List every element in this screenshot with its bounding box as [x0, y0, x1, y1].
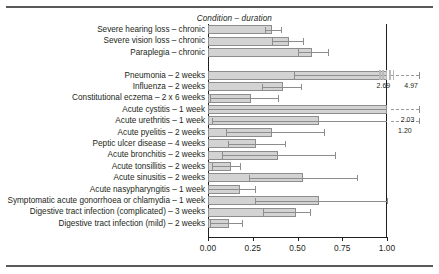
bar-row [208, 70, 387, 81]
x-tick-label: 0.75 [334, 243, 350, 253]
category-label: Digestive tract infection (mild) – 2 wee… [2, 218, 208, 229]
error-bar-cap [263, 209, 264, 216]
error-bar-line [222, 155, 335, 156]
category-label-column: Severe hearing loss – chronicSevere visi… [0, 24, 208, 237]
error-bar-cap [328, 49, 329, 56]
error-bar-line [228, 144, 285, 145]
category-label: Digestive tract infection (complicated) … [2, 206, 208, 217]
x-tick [387, 237, 388, 241]
x-tick-label: 1.00 [379, 243, 395, 253]
x-tick [208, 237, 209, 241]
bar-row [208, 206, 387, 217]
error-bar-cap [249, 175, 250, 182]
bar-row [208, 92, 387, 103]
bar-row [208, 81, 387, 92]
category-label: Acute bronchitis – 2 weeks [2, 149, 208, 160]
axis-break-mark [379, 70, 381, 80]
category-label: Paraplegia – chronic [2, 47, 208, 58]
bar-row [208, 104, 387, 115]
category-label: Symptomatic acute gonorrhoea or chlamydi… [2, 195, 208, 206]
error-bar-cap [240, 163, 241, 170]
error-bar-cap [324, 129, 325, 136]
category-label: Acute nasypharyngitis – 1 week [2, 184, 208, 195]
error-bar-line [249, 178, 356, 179]
error-bar-overflow-cap [419, 106, 420, 113]
error-bar-line [212, 121, 387, 122]
axis-break-mark [386, 70, 388, 80]
bar-row [208, 47, 387, 58]
category-label: Acute tonsillitis – 2 weeks [2, 161, 208, 172]
error-bar-cap [265, 27, 266, 34]
error-bar-cap [255, 186, 256, 193]
error-bar-cap [298, 49, 299, 56]
error-bar-cap [212, 163, 213, 170]
error-bar-line [212, 166, 241, 167]
bar-row [208, 24, 387, 35]
bar-row [208, 184, 387, 195]
error-bar-cap [272, 38, 273, 45]
error-bar-cap [301, 84, 302, 91]
bar [208, 48, 312, 57]
error-bar-line [298, 52, 328, 53]
category-label: Constitutional eczema – 2 x 6 weeks [2, 92, 208, 103]
error-bar-cap [310, 209, 311, 216]
bar-row [208, 127, 387, 138]
category-label: Acute urethritis – 1 week [2, 115, 208, 126]
figure-container: Condition – duration Severe hearing loss… [0, 0, 439, 274]
error-bar-cap [210, 95, 211, 102]
error-bar-cap [281, 27, 282, 34]
overflow-value-label: 4.97 [404, 82, 418, 89]
category-label: Influenza – 2 weeks [2, 81, 208, 92]
error-bar-cap [226, 129, 227, 136]
x-tick-label: 0.50 [289, 243, 305, 253]
chart-title: Condition – duration [0, 14, 272, 23]
error-bar-line [263, 212, 310, 213]
error-bar-line [210, 223, 242, 224]
x-tick [298, 237, 299, 241]
x-tick [253, 237, 254, 241]
error-bar-line [226, 132, 324, 133]
bar-row [208, 161, 387, 172]
bottom-rule [6, 265, 433, 267]
error-bar-overflow-cap [419, 118, 420, 125]
category-label: Severe hearing loss – chronic [2, 24, 208, 35]
error-bar-cap [208, 186, 209, 193]
category-label: Acute pyelitis – 2 weeks [2, 127, 208, 138]
error-bar-cap [285, 141, 286, 148]
error-bar-line [294, 75, 387, 76]
error-bar-line [262, 87, 301, 88]
bar-row [208, 195, 387, 206]
bar-row [208, 138, 387, 149]
x-tick-label: 0.00 [200, 243, 216, 253]
error-bar-cap [208, 106, 209, 113]
category-label: Pneumonia – 2 weeks [2, 70, 208, 81]
error-bar-cap [294, 72, 295, 79]
error-bar-line [265, 30, 281, 31]
overflow-value-label: 2.69 [377, 82, 391, 89]
error-bar-cap [228, 141, 229, 148]
error-bar-line [210, 98, 278, 99]
overflow-value-label: 2.03 [401, 116, 415, 123]
error-bar-line [208, 109, 387, 110]
error-bar-cap [242, 220, 243, 227]
error-bar-cap [212, 118, 213, 125]
error-bar-cap [255, 198, 256, 205]
bar-row [208, 35, 387, 46]
bar-row [208, 218, 387, 229]
error-bar-line [272, 41, 302, 42]
category-label: Severe vision loss – chronic [2, 35, 208, 46]
error-bar-overflow-cap [419, 72, 420, 79]
top-rule [6, 6, 433, 8]
error-bar-overflow-dash [391, 109, 419, 110]
plot-area: 0.000.250.500.751.00 2.694.972.031.20 [208, 24, 387, 237]
error-bar-overflow-dash [391, 75, 419, 76]
axis-break-mark [389, 70, 391, 80]
axis-break-mark [382, 70, 384, 80]
error-bar-line [255, 201, 387, 202]
error-bar-line [208, 189, 255, 190]
error-bar-cap [303, 38, 304, 45]
error-bar-cap [278, 95, 279, 102]
bar-row [208, 172, 387, 183]
category-label: Acute sinusitis – 2 weeks [2, 172, 208, 183]
x-tick [342, 237, 343, 241]
